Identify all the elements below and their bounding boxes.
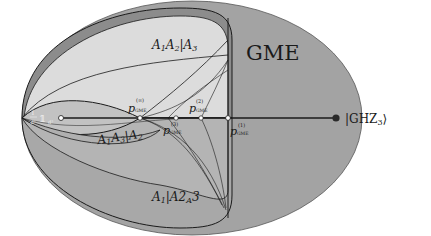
svg-text:(2): (2): [196, 98, 203, 104]
p-2-point: [199, 116, 203, 120]
p-3-point: [174, 116, 178, 120]
svg-text:GME: GME: [237, 131, 249, 136]
svg-text:d³: d³: [48, 119, 53, 125]
p-inf-point: [138, 116, 143, 121]
maximally-mixed-point: [59, 116, 64, 121]
svg-text:d³: d³: [30, 119, 35, 125]
gme-label: GME: [246, 41, 300, 65]
ghz-point: [332, 114, 339, 121]
svg-text:(1): (1): [238, 122, 245, 128]
svg-text:1: 1: [31, 109, 35, 116]
svg-text:(∞): (∞): [136, 97, 144, 103]
svg-text:p: p: [230, 125, 237, 138]
ghz-label: |GHZ3⟩: [345, 112, 387, 127]
svg-text:GME: GME: [135, 108, 147, 113]
svg-text:(3): (3): [171, 121, 178, 127]
svg-text:p: p: [163, 124, 170, 137]
p-1-point: [226, 116, 231, 121]
svg-text:GME: GME: [170, 130, 182, 135]
svg-text:GME: GME: [196, 108, 208, 113]
svg-text:p: p: [189, 102, 196, 115]
svg-text:p: p: [128, 102, 135, 115]
svg-text:𝟙: 𝟙: [39, 113, 46, 124]
a1-a2a3-label: A1|A2A3: [151, 190, 200, 205]
entanglement-diagram: GME A1A2|A3 A1A3|A2 A1|A2A3 1 d³ 𝟙 d³ (∞…: [0, 0, 431, 236]
a1a2-a3-label: A1A2|A3: [151, 38, 197, 53]
